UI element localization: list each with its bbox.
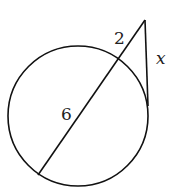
label-external-segment: 2 [114, 28, 125, 48]
label-internal-segment: 6 [61, 104, 72, 124]
secant-line [38, 20, 145, 175]
tangent-line [145, 20, 148, 106]
secant-tangent-diagram: 2 6 x [0, 0, 177, 191]
label-tangent-segment: x [156, 48, 166, 68]
